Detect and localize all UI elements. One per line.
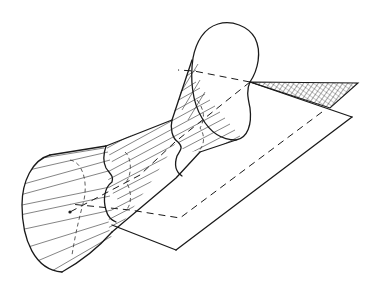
mouth-hidden-section [70, 160, 85, 255]
tube-hidden-section-right [197, 100, 204, 152]
surface-outline [22, 23, 259, 272]
mouth-bottom-edge [62, 232, 112, 272]
cardioid-lower-edge [200, 140, 236, 152]
ruled-surface-diagram [0, 0, 378, 290]
hatched-triangle [250, 82, 358, 108]
tube-bottom-edge [112, 152, 200, 232]
mouth-top-edge [50, 146, 106, 155]
plane-edge-bottom [112, 225, 176, 250]
apex-point [68, 210, 71, 213]
plane-edge-right [176, 117, 352, 250]
cardioid-hidden-chord [178, 70, 250, 82]
tube-body-rulings [100, 64, 240, 232]
plane-hidden-edge [70, 112, 322, 218]
mouth-rulings [20, 148, 115, 280]
